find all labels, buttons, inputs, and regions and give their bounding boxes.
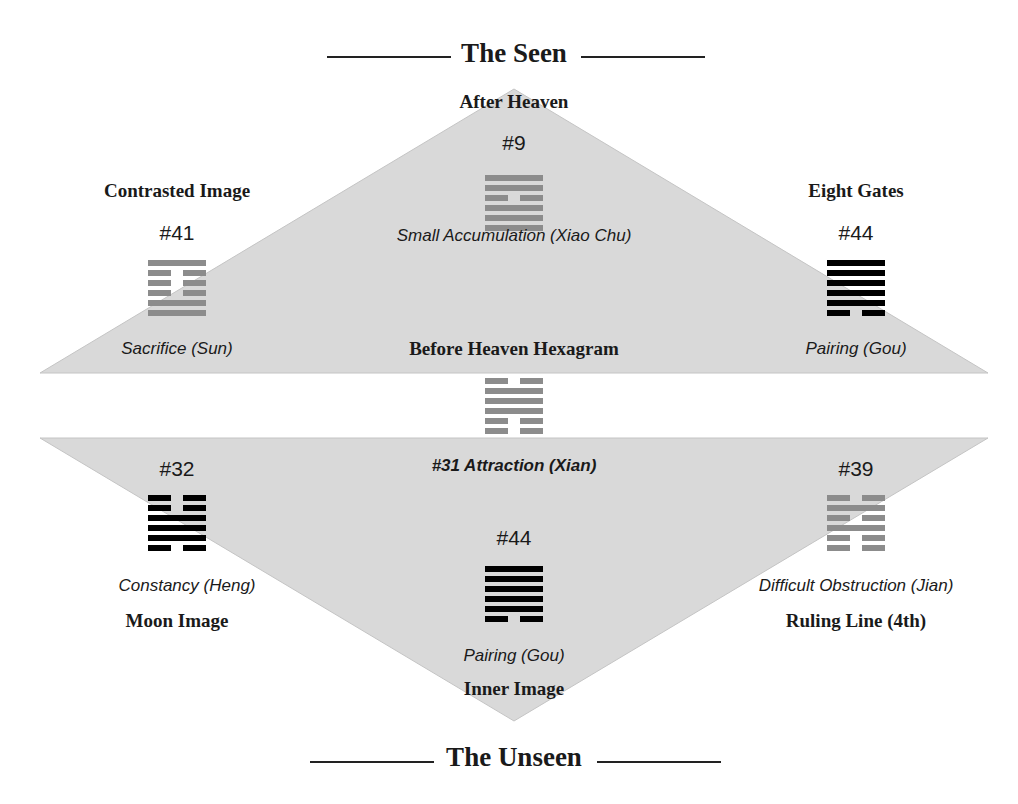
hexagram-44-number-lower: #44	[496, 526, 531, 550]
line-segment	[485, 205, 543, 211]
hexagram-44-name-lower: Pairing (Gou)	[463, 646, 564, 666]
line-segment	[862, 310, 885, 316]
line-segment	[183, 545, 206, 551]
hexagram-31-name: #31 Attraction (Xian)	[432, 456, 597, 476]
line-segment	[485, 398, 543, 404]
line-segment	[485, 418, 508, 424]
hexagram-line-solid	[148, 515, 206, 521]
line-segment	[485, 576, 543, 582]
line-segment	[183, 280, 206, 286]
hexagram-39-name: Difficult Obstruction (Jian)	[759, 576, 954, 596]
hexagram-line-broken	[148, 280, 206, 286]
line-segment	[148, 495, 171, 501]
line-segment	[485, 175, 543, 181]
header-rule-right	[581, 56, 705, 58]
hexagram-9-name: Small Accumulation (Xiao Chu)	[397, 226, 632, 246]
hexagram-line-solid	[827, 270, 885, 276]
line-segment	[827, 545, 850, 551]
contrasted-image-label: Contrasted Image	[104, 180, 250, 202]
hexagram-32-name: Constancy (Heng)	[118, 576, 255, 596]
hexagram-32-number: #32	[159, 457, 194, 481]
line-segment	[520, 428, 543, 434]
line-segment	[148, 525, 206, 531]
line-segment	[485, 408, 543, 414]
line-segment	[827, 535, 850, 541]
hexagram-line-solid	[827, 525, 885, 531]
hexagram-line-solid	[827, 505, 885, 511]
line-segment	[827, 505, 885, 511]
hexagram-line-broken	[827, 515, 885, 521]
eight-gates-label: Eight Gates	[808, 180, 904, 202]
hexagram-line-broken	[485, 195, 543, 201]
line-segment	[183, 290, 206, 296]
line-segment	[827, 260, 885, 266]
hexagram-line-broken	[148, 545, 206, 551]
hexagram-32-icon	[148, 495, 206, 555]
hexagram-line-broken	[148, 495, 206, 501]
line-segment	[485, 596, 543, 602]
hexagram-line-solid	[485, 185, 543, 191]
line-segment	[485, 195, 508, 201]
line-segment	[183, 495, 206, 501]
hexagram-44-icon-lower	[485, 566, 543, 626]
diagram: The Seen After Heaven #9 Small Accumulat…	[0, 0, 1018, 804]
footer-title: The Unseen	[446, 742, 582, 773]
line-segment	[520, 378, 543, 384]
hexagram-44-number-upper: #44	[838, 221, 873, 245]
line-segment	[827, 300, 885, 306]
line-segment	[485, 215, 543, 221]
line-segment	[862, 545, 885, 551]
line-segment	[827, 525, 885, 531]
hexagram-line-broken	[827, 535, 885, 541]
hexagram-line-solid	[485, 388, 543, 394]
before-heaven-label: Before Heaven Hexagram	[409, 338, 619, 360]
header-title: The Seen	[461, 38, 567, 69]
line-segment	[520, 616, 543, 622]
line-segment	[827, 515, 850, 521]
line-segment	[485, 606, 543, 612]
footer-rule-left	[310, 761, 434, 763]
hexagram-line-broken	[485, 378, 543, 384]
hexagram-44-name-upper: Pairing (Gou)	[805, 339, 906, 359]
hexagram-line-solid	[148, 310, 206, 316]
hexagram-line-solid	[148, 300, 206, 306]
moon-image-label: Moon Image	[126, 610, 229, 632]
line-segment	[148, 260, 206, 266]
hexagram-line-solid	[485, 408, 543, 414]
inner-image-label: Inner Image	[464, 678, 564, 700]
hexagram-line-broken	[148, 505, 206, 511]
hexagram-line-broken	[148, 290, 206, 296]
line-segment	[183, 505, 206, 511]
ruling-line-label: Ruling Line (4th)	[786, 610, 926, 632]
line-segment	[520, 195, 543, 201]
line-segment	[520, 418, 543, 424]
hexagram-41-name: Sacrifice (Sun)	[121, 339, 232, 359]
line-segment	[148, 535, 206, 541]
hexagram-line-solid	[485, 576, 543, 582]
line-segment	[148, 270, 171, 276]
line-segment	[827, 290, 885, 296]
line-segment	[485, 378, 508, 384]
footer-rule-right	[597, 761, 721, 763]
line-segment	[862, 495, 885, 501]
hexagram-line-solid	[827, 260, 885, 266]
line-segment	[827, 280, 885, 286]
line-segment	[183, 270, 206, 276]
line-segment	[148, 290, 171, 296]
hexagram-line-solid	[148, 535, 206, 541]
hexagram-line-solid	[148, 260, 206, 266]
hexagram-line-solid	[827, 290, 885, 296]
hexagram-line-solid	[485, 175, 543, 181]
line-segment	[862, 535, 885, 541]
hexagram-line-broken	[148, 270, 206, 276]
line-segment	[485, 586, 543, 592]
hexagram-line-solid	[485, 566, 543, 572]
line-segment	[485, 185, 543, 191]
line-segment	[148, 545, 171, 551]
hexagram-line-solid	[485, 205, 543, 211]
line-segment	[485, 388, 543, 394]
hexagram-31-icon	[485, 378, 543, 438]
hexagram-line-solid	[485, 586, 543, 592]
line-segment	[827, 310, 850, 316]
hexagram-line-broken	[827, 545, 885, 551]
